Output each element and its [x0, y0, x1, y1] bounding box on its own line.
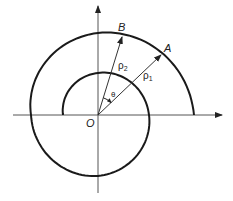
rho1-subscript: 1 — [149, 75, 153, 82]
rho1-label: ρ1 — [143, 70, 153, 82]
spiral-curve — [30, 33, 194, 177]
rho2-label: ρ2 — [118, 60, 128, 72]
theta-arc — [103, 98, 111, 103]
point-a-label: A — [163, 42, 171, 54]
spiral-diagram: B A O θ ρ2 ρ1 — [0, 0, 233, 201]
theta-label: θ — [111, 90, 116, 99]
origin-label: O — [86, 117, 95, 129]
point-b-label: B — [118, 21, 125, 33]
rho2-subscript: 2 — [124, 65, 128, 72]
